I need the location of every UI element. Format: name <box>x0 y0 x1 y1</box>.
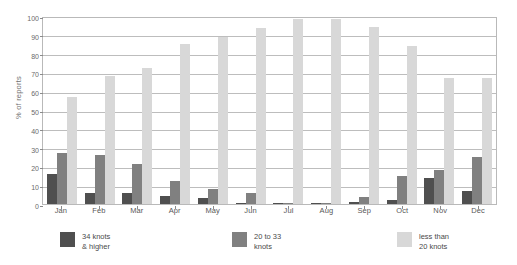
bar <box>321 203 331 204</box>
legend-label: 20 to 33 knots <box>254 232 281 251</box>
bar <box>369 27 379 204</box>
bar <box>218 37 228 204</box>
y-axis-tick-label: 70 <box>31 71 39 78</box>
bar-group <box>194 18 232 204</box>
bar <box>349 202 359 204</box>
bar <box>160 196 170 204</box>
x-axis-tick-mark <box>288 206 289 209</box>
bar <box>424 178 434 204</box>
bar <box>472 157 482 204</box>
y-axis-tick-label: 100 <box>27 15 39 22</box>
bar <box>359 197 369 204</box>
y-axis-tick-label: 10 <box>31 184 39 191</box>
bar <box>180 44 190 204</box>
bar <box>444 78 454 204</box>
bar <box>397 176 407 204</box>
y-axis-tick-label: 40 <box>31 127 39 134</box>
legend-item[interactable]: 20 to 33 knots <box>232 232 281 251</box>
bar <box>482 78 492 204</box>
bar-group <box>345 18 383 204</box>
bar <box>331 19 341 204</box>
bar <box>462 191 472 204</box>
bar <box>170 181 180 204</box>
y-axis-tick-label: 20 <box>31 165 39 172</box>
bar <box>67 97 77 204</box>
y-axis-tick-label: 0 <box>35 203 39 210</box>
chart-container: % of reports 0102030405060708090100 JanF… <box>0 0 517 265</box>
bar <box>283 203 293 204</box>
bar-group <box>421 18 459 204</box>
bar <box>246 193 256 204</box>
bar <box>434 170 444 204</box>
x-axis-tick-mark <box>175 206 176 209</box>
x-axis-tick-mark <box>213 206 214 209</box>
bar <box>208 189 218 204</box>
bar <box>47 174 57 204</box>
x-axis-tick-mark <box>326 206 327 209</box>
plot-area: 0102030405060708090100 <box>42 17 497 205</box>
y-axis-tick-label: 90 <box>31 33 39 40</box>
x-axis-tick-mark <box>402 206 403 209</box>
x-axis-tick-mark <box>99 206 100 209</box>
x-axis-labels: JanFebMarAprMayJunJulAugSepOctNovDec <box>42 206 497 215</box>
bar <box>198 198 208 204</box>
bar <box>132 164 142 204</box>
chart-legend: 34 knots & higher20 to 33 knotsless than… <box>42 232 502 260</box>
legend-item[interactable]: 34 knots & higher <box>60 232 110 251</box>
y-axis-tick-label: 30 <box>31 146 39 153</box>
bar <box>387 200 397 204</box>
bar-groups <box>43 18 496 204</box>
bar <box>311 203 321 204</box>
bar <box>57 153 67 204</box>
bar <box>293 19 303 204</box>
bar-group <box>81 18 119 204</box>
x-axis-tick-mark <box>440 206 441 209</box>
x-axis-tick-mark <box>478 206 479 209</box>
bar-group <box>232 18 270 204</box>
legend-swatch <box>60 232 75 247</box>
x-axis-tick-mark <box>137 206 138 209</box>
legend-label: 34 knots & higher <box>82 232 110 251</box>
bar <box>256 28 266 204</box>
bar <box>236 203 246 204</box>
bar-group <box>270 18 308 204</box>
y-axis-tick-label: 50 <box>31 109 39 116</box>
bar-group <box>119 18 157 204</box>
bar-group <box>43 18 81 204</box>
bar <box>407 46 417 204</box>
x-axis-tick-mark <box>61 206 62 209</box>
bar-group <box>383 18 421 204</box>
bar-group <box>156 18 194 204</box>
legend-swatch <box>397 232 412 247</box>
x-axis-tick-mark <box>251 206 252 209</box>
y-axis-tick-label: 80 <box>31 52 39 59</box>
bar <box>85 193 95 204</box>
bar <box>142 68 152 204</box>
bar <box>273 203 283 204</box>
legend-swatch <box>232 232 247 247</box>
bar <box>95 155 105 204</box>
bar-group <box>307 18 345 204</box>
legend-label: less than 20 knots <box>419 232 449 251</box>
bar <box>122 193 132 204</box>
y-axis-title: % of reports <box>14 58 23 138</box>
x-axis-tick-mark <box>364 206 365 209</box>
legend-item[interactable]: less than 20 knots <box>397 232 449 251</box>
y-axis-tick-label: 60 <box>31 90 39 97</box>
bar-group <box>458 18 496 204</box>
bar <box>105 76 115 204</box>
